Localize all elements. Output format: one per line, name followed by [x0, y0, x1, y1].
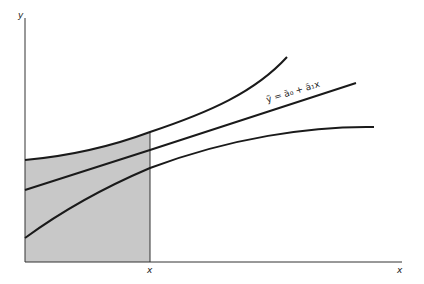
x-axis-label: x [397, 265, 402, 275]
upper-confidence-curve [25, 57, 287, 160]
y-axis-label: y [18, 10, 23, 20]
regression-diagram [0, 0, 424, 284]
x-bound-label: x [147, 265, 152, 275]
shaded-region [25, 132, 150, 262]
regression-line [25, 83, 356, 190]
